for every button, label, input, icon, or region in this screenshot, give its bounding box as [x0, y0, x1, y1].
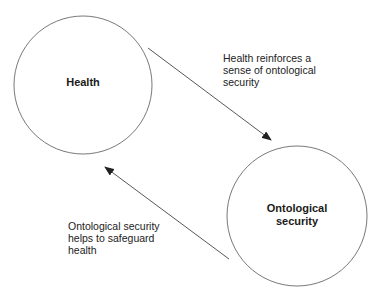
label-line: security: [223, 76, 316, 88]
label-line: helps to safeguard: [68, 232, 160, 244]
label-line: security: [257, 215, 337, 228]
label-line: sense of ontological: [223, 64, 316, 76]
label-line: health: [68, 244, 160, 256]
edge-label-health-to-security: Health reinforces a sense of ontological…: [223, 52, 316, 88]
ontological-security-node-label: Ontological security: [257, 202, 337, 228]
edge-label-security-to-health: Ontological security helps to safeguard …: [68, 220, 160, 256]
health-node-label: Health: [53, 76, 113, 89]
label-line: Health reinforces a: [223, 52, 316, 64]
label-line: Ontological: [257, 202, 337, 215]
label-line: Health: [53, 76, 113, 89]
diagram-canvas: [0, 0, 382, 303]
label-line: Ontological security: [68, 220, 160, 232]
